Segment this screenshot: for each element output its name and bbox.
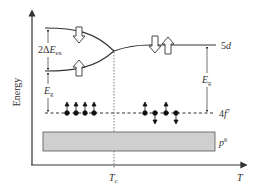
p6-band — [43, 132, 215, 151]
spin-down-arrow-upper — [73, 27, 85, 43]
5d-label: 5d — [221, 40, 232, 51]
band-diagram: Energy T Tc 5d 2ΔEex Eg Eg 4f7 — [0, 0, 261, 192]
y-axis-label: Energy — [11, 78, 22, 107]
tc-label: Tc — [109, 172, 118, 185]
x-axis-label: T — [237, 172, 244, 183]
4f7-label: 4f7 — [219, 107, 231, 119]
p6-label: p6 — [218, 136, 228, 148]
